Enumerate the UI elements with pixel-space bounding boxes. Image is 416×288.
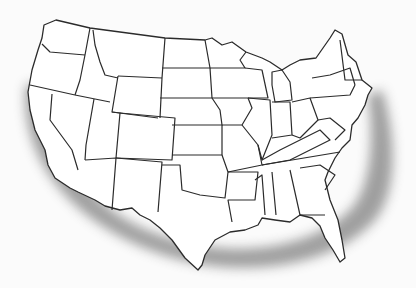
us-map [0, 0, 416, 288]
map-figure [0, 0, 416, 288]
